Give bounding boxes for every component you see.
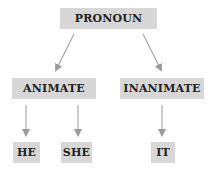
node-he: HE [13, 142, 40, 163]
node-label: IT [156, 146, 170, 159]
node-it: IT [151, 142, 175, 163]
node-animate: ANIMATE [12, 78, 96, 99]
node-label: INANIMATE [123, 82, 200, 95]
arrow-pronoun-inanimate [143, 34, 161, 70]
node-pronoun: PRONOUN [60, 8, 157, 29]
node-label: SHE [63, 146, 90, 159]
node-inanimate: INANIMATE [120, 78, 204, 99]
node-label: ANIMATE [23, 82, 85, 95]
node-she: SHE [61, 142, 92, 163]
node-label: PRONOUN [75, 12, 143, 25]
arrow-pronoun-animate [56, 34, 74, 70]
node-label: HE [17, 146, 36, 159]
